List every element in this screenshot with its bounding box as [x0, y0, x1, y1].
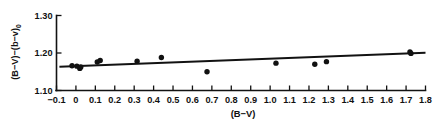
x-tick-label: 0.5 — [167, 95, 180, 105]
x-axis-title: (B−V) — [231, 108, 256, 119]
x-tick-label: 1.7 — [400, 95, 413, 105]
x-tick-label: 1.3 — [322, 95, 335, 105]
plot-canvas: 1.101.201.30 −0.100.10.20.30.40.50.60.70… — [0, 0, 441, 123]
x-tick-label: 0.6 — [186, 95, 199, 105]
data-point — [324, 59, 329, 64]
data-point-group — [69, 49, 413, 74]
svg-text:(B−V)−(b−v)0: (B−V)−(b−v)0 — [10, 24, 22, 80]
x-tick-label: 0 — [73, 95, 78, 105]
x-tick-label-group: −0.100.10.20.30.40.50.60.70.80.91.01.11.… — [47, 95, 431, 105]
x-tick-label: 0.4 — [147, 95, 161, 105]
y-tick-label: 1.30 — [35, 11, 53, 21]
x-tick-label: 0.1 — [89, 95, 102, 105]
plot-area — [56, 16, 426, 91]
data-point — [204, 69, 209, 74]
y-axis-title-main: (B−V)−(b−v) — [10, 28, 20, 80]
x-tick-label: 0.7 — [205, 95, 218, 105]
x-tick-label: 1.5 — [361, 95, 374, 105]
x-tick-label: 1.4 — [341, 95, 355, 105]
x-tick-label: 1.6 — [380, 95, 393, 105]
x-tick-label: 1.1 — [283, 95, 296, 105]
y-tick-label: 1.20 — [35, 48, 53, 58]
data-point — [97, 58, 102, 63]
data-point — [69, 63, 74, 68]
data-point — [312, 62, 317, 67]
x-tick-label: 1.2 — [303, 95, 316, 105]
x-tick-label: 0.9 — [244, 95, 257, 105]
x-tick-label: 0.2 — [108, 95, 121, 105]
y-axis-title-subscript: 0 — [15, 24, 22, 28]
x-tick-label: 0.8 — [225, 95, 238, 105]
data-point — [159, 55, 164, 60]
data-point — [273, 60, 278, 65]
x-tick-label: 1.0 — [264, 95, 277, 105]
y-tick-label-group: 1.101.201.30 — [35, 11, 53, 96]
x-tick-label: −0.1 — [47, 95, 65, 105]
data-point — [134, 59, 139, 64]
scatter-plot-figure: 1.101.201.30 −0.100.10.20.30.40.50.60.70… — [0, 0, 441, 123]
x-tick-label: 0.3 — [128, 95, 141, 105]
data-point — [78, 64, 83, 69]
y-axis-title: (B−V)−(b−v)0 — [10, 24, 22, 80]
data-point — [408, 51, 413, 56]
regression-fit-line — [59, 53, 425, 67]
x-tick-label: 1.8 — [419, 95, 432, 105]
